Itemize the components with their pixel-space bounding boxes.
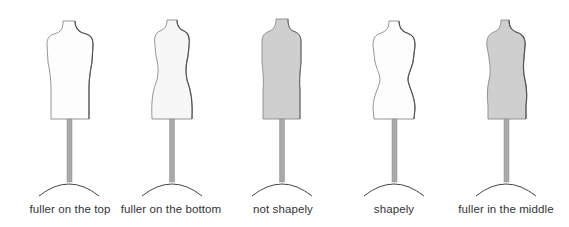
mannequin-fuller-in-middle: fuller in the middle	[441, 0, 569, 227]
dress-form-icon	[441, 0, 569, 200]
mannequin-label: shapely	[329, 203, 459, 215]
body-shapes-diagram: fuller on the top fuller on the bottom n…	[0, 0, 569, 227]
dress-form-icon	[106, 0, 236, 200]
mannequin-label: fuller on the bottom	[106, 203, 236, 215]
mannequin-shapely: shapely	[329, 0, 459, 227]
mannequin-label: fuller in the middle	[441, 203, 569, 215]
mannequin-fuller-on-bottom: fuller on the bottom	[106, 0, 236, 227]
dress-form-icon	[329, 0, 459, 200]
